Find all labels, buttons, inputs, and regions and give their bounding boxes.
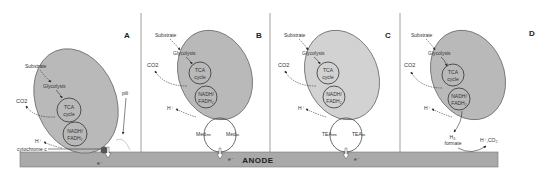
tca-label: TCA	[195, 67, 206, 73]
proton-arrow	[306, 109, 326, 117]
nadh-circle	[195, 86, 217, 108]
panel-letter: A	[124, 31, 130, 40]
proton-co2-label: H⁺,CO₂	[480, 137, 498, 143]
panel-letter: D	[529, 29, 535, 38]
proton-label: H⁺	[167, 105, 174, 111]
proton-arrow	[432, 109, 452, 117]
mfc-diagram: ANODE A Substrate Glycolysis TCA cycle N…	[0, 0, 548, 176]
nadh-circle	[448, 88, 470, 110]
tca-label-2: cycle	[63, 111, 75, 117]
panel-letter: C	[385, 31, 391, 40]
glycolysis-label: Glycolysis	[173, 50, 196, 56]
tca-label: TCA	[323, 67, 334, 73]
substrate-arrow	[170, 39, 180, 50]
glycolysis-label: Glycolysis	[302, 50, 325, 56]
fadh-label: FADH₂	[198, 98, 213, 104]
substrate-label: Substrate	[284, 32, 306, 38]
glycolysis-label: Glycolysis	[428, 50, 451, 56]
panel-a: A Substrate Glycolysis TCA cycle NADH/ F…	[16, 31, 133, 166]
co2-label: CO2	[278, 62, 289, 68]
proton-label: H⁺	[424, 105, 431, 111]
mediator-oxidized-label: Medₒₓ	[226, 131, 240, 137]
tca-label-2: cycle	[447, 76, 459, 82]
cytochrome-label: cytochrome c	[17, 146, 47, 152]
anode-oxidation-arrow	[458, 146, 486, 152]
tca-cycle-circle	[57, 98, 81, 122]
nadh-circle	[323, 86, 345, 108]
electron-label: e⁻	[97, 160, 103, 166]
pili-label: pili	[122, 90, 128, 96]
tca-cycle-circle	[317, 62, 339, 84]
proton-label: H⁺	[35, 138, 42, 144]
electron-label: e⁻	[354, 156, 360, 162]
pili-arrow	[123, 98, 126, 134]
substrate-label: Substrate	[25, 63, 47, 69]
substrate-arrow	[426, 39, 435, 50]
panel-b: B Substrate Glycolysis TCA cycle NADH/ F…	[147, 19, 266, 162]
bacterial-cell	[417, 19, 518, 131]
nadh-label: NADH/	[326, 91, 342, 97]
proton-label: H⁺	[298, 105, 305, 111]
co2-label: CO2	[147, 62, 158, 68]
nadh-label: NADH/	[67, 128, 83, 134]
substrate-arrow	[299, 39, 308, 50]
nadh-label: NADH/	[451, 93, 467, 99]
glycolysis-label: Glycolysis	[43, 83, 66, 89]
bacterial-cell	[291, 19, 392, 131]
panel-d: D Substrate Glycolysis TCA cycle NADH/ F…	[404, 19, 535, 152]
pili	[116, 139, 130, 150]
co2-label: CO2	[16, 98, 27, 104]
tca-label: TCA	[448, 69, 459, 75]
proton-arrow	[176, 109, 196, 117]
cytochrome-c	[101, 147, 108, 154]
panel-c: C Substrate Glycolysis TCA cycle NADH/ F…	[278, 19, 393, 162]
tca-label-2: cycle	[322, 74, 334, 80]
substrate-label: Substrate	[411, 32, 433, 38]
nadh-circle	[63, 122, 87, 146]
nadh-label: NADH/	[198, 91, 214, 97]
tca-label: TCA	[64, 104, 75, 110]
fadh-label: FADH₂	[326, 98, 341, 104]
fadh-label: FADH₂	[451, 100, 466, 106]
tca-cycle-circle	[189, 62, 211, 84]
mediator-reduced-label: Medᵣₑₔ	[196, 131, 211, 137]
substrate-label: Substrate	[155, 32, 177, 38]
tea-reduced-label: TEAᵣₑₔ	[322, 131, 337, 137]
tea-oxidized-label: TEAₒₓ	[352, 131, 366, 137]
panel-letter: B	[256, 31, 262, 40]
electron-label: e⁻	[228, 156, 234, 162]
fadh-label: FADH₂	[67, 135, 82, 141]
anode-label: ANODE	[242, 156, 274, 165]
tca-label-2: cycle	[194, 74, 206, 80]
formate-label: formate	[445, 140, 462, 146]
tca-cycle-circle	[442, 64, 464, 86]
co2-label: CO2	[404, 62, 415, 68]
bacterial-cell	[164, 19, 265, 131]
